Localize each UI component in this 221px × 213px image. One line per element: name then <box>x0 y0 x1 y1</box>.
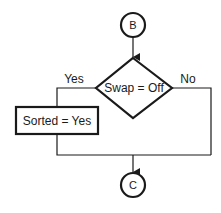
connector-b: B <box>121 13 145 37</box>
process-label: Sorted = Yes <box>23 114 91 128</box>
yes-branch-line <box>57 88 96 107</box>
decision-label: Swap = Off <box>104 81 164 95</box>
no-label: No <box>180 72 196 86</box>
no-branch-line <box>172 88 211 155</box>
process-sorted-yes: Sorted = Yes <box>16 107 98 134</box>
connector-b-label: B <box>129 19 136 31</box>
flowchart: B Swap = Off Yes No Sorted = Yes C <box>0 0 221 213</box>
yes-label: Yes <box>64 72 84 86</box>
merge-line <box>57 134 211 155</box>
connector-c-label: C <box>129 179 137 191</box>
decision-swap-off: Swap = Off <box>96 58 172 118</box>
connector-c: C <box>121 173 145 197</box>
